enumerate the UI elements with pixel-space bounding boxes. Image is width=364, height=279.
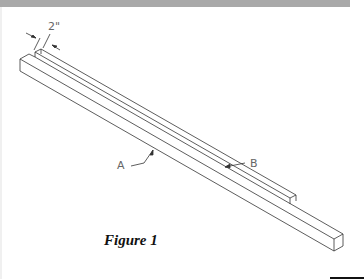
figure-caption: Figure 1 [104,232,158,249]
dimension-lines [26,33,60,50]
strip-b [35,49,296,204]
callout-a: A [117,159,125,172]
isometric-drawing: 2" A B [0,0,364,279]
callout-b: B [250,157,258,170]
dimension-label: 2" [48,20,60,33]
base-beam [20,54,343,251]
leader-lines [131,150,245,168]
